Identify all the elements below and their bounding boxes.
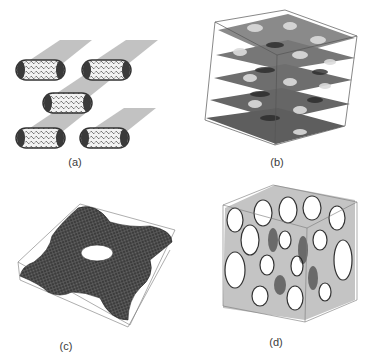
periodic-surface-illustration bbox=[0, 180, 185, 360]
mesh-surface bbox=[20, 207, 172, 320]
bicontinuous-network-illustration bbox=[185, 180, 369, 360]
panel-d: (d) bbox=[185, 180, 369, 360]
panel-label-d: (d) bbox=[256, 336, 296, 348]
panel-label-b: (b) bbox=[257, 156, 297, 168]
lamellar-cube-illustration bbox=[0, 0, 369, 180]
panel-b: (b) bbox=[0, 0, 369, 180]
panel-label-c: (c) bbox=[46, 340, 86, 352]
panel-c: (c) bbox=[0, 180, 185, 360]
lamella-layers bbox=[206, 14, 355, 144]
central-hole bbox=[81, 245, 113, 261]
